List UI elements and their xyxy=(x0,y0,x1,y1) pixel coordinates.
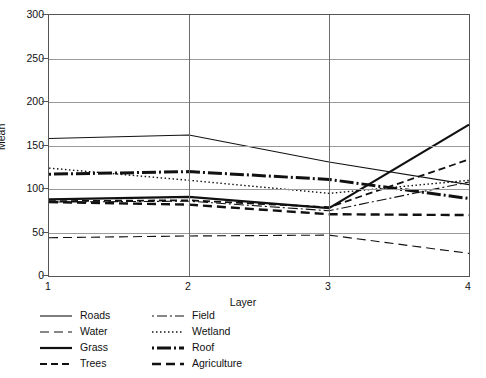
y-axis-ticks: 050100150200250300 xyxy=(0,0,44,378)
legend-item-label: Wetland xyxy=(192,326,230,337)
x-axis-title: Layer xyxy=(0,296,486,308)
y-tick-label: 300 xyxy=(10,9,44,20)
series-line xyxy=(49,182,469,211)
y-tick-label: 100 xyxy=(10,183,44,194)
gridline-horizontal xyxy=(49,102,469,103)
legend-line-swatch-icon xyxy=(40,310,74,322)
series-line xyxy=(49,172,469,199)
gridline-horizontal xyxy=(49,146,469,147)
y-tick-label: 250 xyxy=(10,53,44,64)
legend-line-swatch-icon xyxy=(152,310,186,322)
legend-line-swatch-icon xyxy=(40,342,74,354)
series-line xyxy=(49,235,469,253)
legend-item[interactable]: Trees xyxy=(40,356,106,371)
gridline-horizontal xyxy=(49,189,469,190)
legend-line-swatch-icon xyxy=(152,326,186,338)
x-tick-label: 1 xyxy=(45,281,51,292)
legend-item-label: Water xyxy=(80,326,108,337)
legend-item-label: Trees xyxy=(80,358,106,369)
plot-area xyxy=(48,14,470,277)
gridline-vertical xyxy=(189,15,190,276)
gridline-horizontal xyxy=(49,233,469,234)
legend-line-swatch-icon xyxy=(40,358,74,370)
y-tick-label: 200 xyxy=(10,96,44,107)
legend-item-label: Grass xyxy=(80,342,108,353)
y-tick-label: 50 xyxy=(10,227,44,238)
legend-item[interactable]: Roads xyxy=(40,308,110,323)
legend-item[interactable]: Agriculture xyxy=(152,356,242,371)
x-tick-label: 3 xyxy=(325,281,331,292)
legend-line-swatch-icon xyxy=(40,326,74,338)
legend-line-swatch-icon xyxy=(152,358,186,370)
legend-item[interactable]: Water xyxy=(40,324,108,339)
gridline-vertical xyxy=(329,15,330,276)
y-tick-label: 150 xyxy=(10,140,44,151)
y-axis-title: Mean xyxy=(0,124,7,150)
series-line xyxy=(49,135,469,185)
series-line xyxy=(49,159,469,207)
legend-item[interactable]: Grass xyxy=(40,340,108,355)
legend-item-label: Roof xyxy=(192,342,214,353)
legend-line-swatch-icon xyxy=(152,342,186,354)
legend-item[interactable]: Field xyxy=(152,308,215,323)
legend-item[interactable]: Wetland xyxy=(152,324,230,339)
gridline-horizontal xyxy=(49,59,469,60)
legend-item-label: Roads xyxy=(80,310,110,321)
x-tick-label: 4 xyxy=(465,281,471,292)
chart-container: 050100150200250300 Mean Layer RoadsWater… xyxy=(0,0,486,378)
legend-item[interactable]: Roof xyxy=(152,340,214,355)
y-tick-label: 0 xyxy=(10,270,44,281)
legend-item-label: Field xyxy=(192,310,215,321)
x-tick-label: 2 xyxy=(185,281,191,292)
legend-item-label: Agriculture xyxy=(192,358,242,369)
chart-legend: RoadsWaterGrassTreesFieldWetlandRoofAgri… xyxy=(40,308,270,372)
